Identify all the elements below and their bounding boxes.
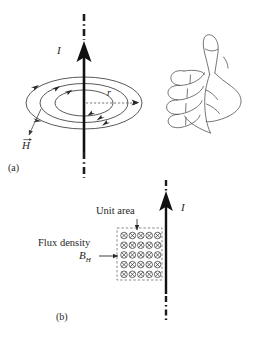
flux-symbol-cross-in-circle [129, 261, 136, 268]
flux-symbol-cross-in-circle [146, 242, 153, 249]
panel-caption-b: (b) [56, 312, 68, 322]
flux-symbol-cross-in-circle [138, 232, 145, 239]
unit-area-label: Unit area [96, 206, 135, 217]
panel-caption-a: (a) [8, 163, 19, 173]
flux-symbol-cross-in-circle [146, 252, 153, 259]
flux-symbol-cross-in-circle [146, 271, 153, 278]
flux-density-subscript: H [86, 256, 91, 264]
current-wire-b [159, 180, 173, 322]
flux-symbol-cross-in-circle [129, 252, 136, 259]
current-label-b: I [181, 202, 185, 213]
vector-arrow-accent-icon [23, 137, 32, 142]
flux-symbol-cross-in-circle [138, 242, 145, 249]
flux-symbol-cross-in-circle [129, 271, 136, 278]
flux-symbol-cross-in-circle [154, 232, 161, 239]
flux-density-symbol: B [79, 249, 86, 261]
flux-symbol-cross-in-circle [138, 271, 145, 278]
flux-symbol-grid [121, 232, 161, 277]
flux-symbol-cross-in-circle [154, 252, 161, 259]
flux-symbol-cross-in-circle [129, 242, 136, 249]
figure-canvas [0, 0, 272, 345]
right-hand-thumbs-up-illustration [167, 35, 241, 133]
flux-symbol-cross-in-circle [121, 242, 128, 249]
current-wire-a [77, 14, 92, 178]
physics-figure: I r H (a) I Unit area Flux density BH (b… [0, 0, 272, 345]
flux-symbol-cross-in-circle [121, 232, 128, 239]
flux-symbol-cross-in-circle [129, 232, 136, 239]
flux-symbol-cross-in-circle [138, 252, 145, 259]
flux-symbol-cross-in-circle [121, 261, 128, 268]
radius-label: r [107, 88, 111, 98]
field-vector-label: H [22, 140, 30, 151]
flux-symbol-cross-in-circle [154, 261, 161, 268]
flux-symbol-cross-in-circle [154, 271, 161, 278]
flux-symbol-cross-in-circle [138, 261, 145, 268]
flux-symbol-cross-in-circle [121, 252, 128, 259]
flux-density-symbol-label: BH [79, 250, 91, 264]
flux-symbol-cross-in-circle [146, 232, 153, 239]
flux-symbol-cross-in-circle [154, 242, 161, 249]
flux-symbol-cross-in-circle [121, 271, 128, 278]
current-label-a: I [57, 45, 61, 56]
field-vector-leader [29, 109, 41, 135]
flux-density-label: Flux density [38, 238, 90, 249]
flux-symbol-cross-in-circle [146, 261, 153, 268]
